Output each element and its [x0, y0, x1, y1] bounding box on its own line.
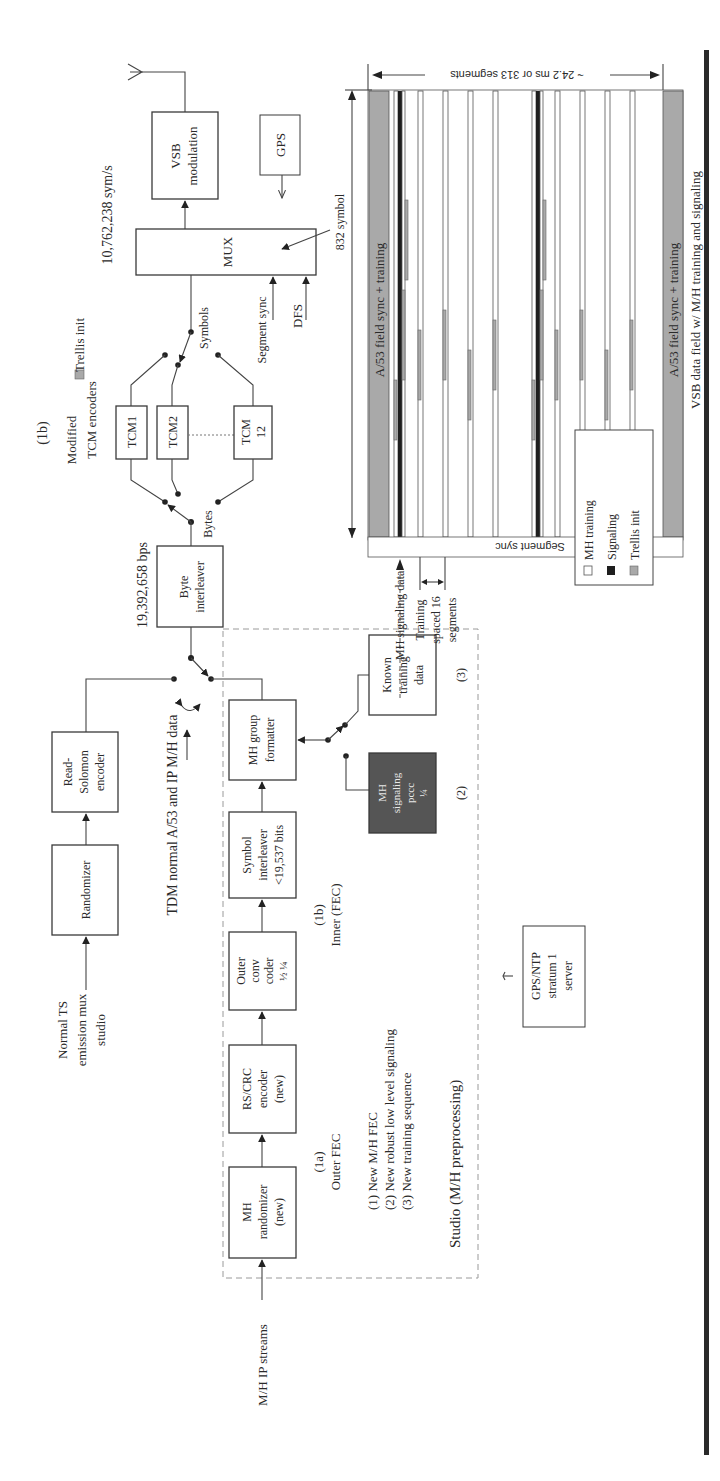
- gpsntp-line1: GPS/NTP: [529, 952, 543, 1000]
- mh-transmission-diagram: VSB modulation GPS 10,762,238 sym/s MUX …: [0, 0, 720, 1481]
- mh-randomizer-block: MH randomizer (new): [229, 1167, 296, 1258]
- outer-fec-label: Outer FEC: [328, 1134, 343, 1191]
- section-1b-label: (1b): [35, 421, 51, 445]
- num3-label: (3): [454, 668, 468, 682]
- mhgf-line2: formatter: [263, 718, 277, 763]
- outer-fec-num: (1a): [311, 1152, 326, 1173]
- page-border-bar: [704, 50, 709, 1455]
- legend-swatch-trellis-init: [630, 566, 638, 575]
- rscrc-line3: (new): [272, 1075, 286, 1103]
- outer-conv-coder-block: Outer conv coder ½ ¼: [229, 932, 296, 1010]
- rs-line2: Solomon: [77, 750, 91, 793]
- field-sync-right-label: A/53 field sync + training: [666, 242, 681, 377]
- mhgf-line1: MH group: [246, 715, 260, 765]
- symbol-interleaver-block: Symbol interleaver <19,537 bits: [229, 812, 296, 898]
- randomizer-block: Randomizer: [52, 845, 118, 935]
- occ-line4: ½ ¼: [277, 961, 289, 980]
- note-1: (1) New M/H FEC: [365, 1112, 380, 1210]
- rs-line3: encoder: [93, 753, 107, 791]
- mhr-line1: MH: [240, 1202, 254, 1222]
- tcm-encoders-label: TCM encoders: [84, 381, 99, 459]
- gps-ntp-server-block: GPS/NTP stratum 1 server: [523, 926, 585, 1027]
- occ-line2: conv: [248, 959, 262, 982]
- read-solomon-encoder-block: Read- Solomon encoder: [52, 732, 118, 812]
- tcm12-block: TCM 12: [234, 406, 272, 459]
- legend: MH training Signaling Trellis init: [575, 430, 653, 585]
- duration-label: ~ 24.2 ms or 313 segments: [450, 69, 584, 81]
- gpsntp-line2: stratum 1: [545, 954, 559, 999]
- symbols-label: Symbols: [197, 307, 211, 349]
- note-2: (2) New robust low level signaling: [382, 1029, 397, 1210]
- dfs-label: DFS: [290, 304, 305, 328]
- normal-ts-line2: emission mux: [74, 993, 89, 1066]
- mh-signaling-data-label: MH signaling data: [393, 570, 407, 660]
- mh-ip-streams-label: M/H IP streams: [255, 1324, 270, 1406]
- trellis-init-top-label: Trellis init: [72, 318, 87, 372]
- legend-label-signaling: Signaling: [605, 514, 619, 560]
- signaling-segment: [398, 91, 402, 537]
- signaling-segment-2: [536, 91, 540, 537]
- tcm1-block: TCM1: [116, 406, 147, 459]
- si-line1: Symbol: [240, 836, 254, 874]
- tcm2-block: TCM2: [157, 406, 188, 459]
- 832-symbol-label: 832 symbol: [333, 193, 347, 250]
- segment-sync-label: Segment sync: [495, 541, 565, 553]
- gps-label: GPS: [273, 133, 288, 157]
- byte-interleaver-line1: Byte: [177, 576, 191, 599]
- occ-line1: Outer: [234, 957, 248, 984]
- tcm12-label-1: TCM: [239, 419, 253, 445]
- mhs-line2: signaling: [390, 772, 402, 813]
- num2-label: (2): [454, 786, 468, 800]
- normal-ts-line3: studio: [93, 1014, 108, 1046]
- byte-interleaver-block: Byte interleaver: [157, 546, 223, 627]
- mhr-line2: randomizer: [256, 1185, 270, 1240]
- diagram-svg: VSB modulation GPS 10,762,238 sym/s MUX …: [0, 0, 720, 1481]
- si-line3: <19,537 bits: [272, 825, 286, 885]
- gpsntp-line3: server: [561, 961, 575, 990]
- bytes-label: Bytes: [201, 510, 215, 538]
- symbol-rate-label: 10,762,238 sym/s: [100, 165, 115, 264]
- vsb-modulation-block: VSB modulation: [152, 112, 218, 199]
- byte-interleaver-line2: interleaver: [193, 561, 207, 612]
- mh-signaling-pccc-block: MH signaling pccc ¼: [369, 753, 436, 833]
- legend-swatch-mh-training: [584, 566, 592, 575]
- vsb-line1: VSB: [168, 143, 183, 169]
- normal-ts-line1: Normal TS: [55, 1001, 70, 1059]
- mhs-line4: ¼: [418, 789, 429, 797]
- mh-group-formatter-block: MH group formatter: [229, 700, 296, 780]
- mhs-line1: MH: [376, 784, 388, 802]
- vsb-data-field: ~ 24.2 ms or 313 segments A/53 field syn…: [345, 64, 703, 700]
- ktd-line2: training: [396, 656, 410, 693]
- tdm-label: TDM normal A/53 and IP M/H data: [165, 714, 180, 916]
- vsb-field-caption: VSB data field w/ M/H training and signa…: [688, 171, 703, 409]
- tcm2-label: TCM2: [166, 416, 180, 448]
- mux-label: MUX: [220, 236, 235, 267]
- inner-fec-label: Inner (FEC): [328, 883, 343, 946]
- mhr-line3: (new): [272, 1198, 286, 1226]
- rscrc-line1: RS/CRC: [240, 1068, 254, 1110]
- randomizer-label: Randomizer: [79, 861, 93, 920]
- tcm12-label-2: 12: [254, 426, 268, 438]
- si-line2: interleaver: [256, 829, 270, 880]
- training-spacing-line3: segments: [445, 597, 459, 642]
- occ-line3: coder: [262, 958, 276, 985]
- rscrc-line2: encoder: [256, 1070, 270, 1108]
- rs-line1: Read-: [61, 758, 75, 787]
- rs-crc-encoder-block: RS/CRC encoder (new): [229, 1045, 296, 1133]
- ktd-line1: Known: [380, 657, 394, 692]
- inner-fec-num: (1b): [311, 904, 326, 926]
- segment-sync-input-label: Segment sync: [255, 297, 269, 364]
- studio-label: Studio (M/H preprocessing): [447, 1080, 464, 1248]
- legend-label-trellis-init: Trellis init: [628, 509, 642, 560]
- training-spacing-line1: Training: [413, 600, 427, 641]
- modified-label: Modified: [64, 415, 79, 464]
- vsb-line2: modulation: [185, 126, 200, 186]
- legend-label-mh-training: MH training: [582, 500, 596, 560]
- tcm1-label: TCM1: [125, 416, 139, 448]
- bit-rate-label: 19,392,658 bps: [135, 542, 150, 628]
- training-spacing-line2: spaced 16: [429, 596, 443, 644]
- field-sync-left-label: A/53 field sync + training: [372, 242, 387, 377]
- ktd-line3: data: [412, 664, 426, 685]
- gps-block: GPS: [260, 115, 300, 175]
- mhs-line3: pccc: [404, 783, 416, 803]
